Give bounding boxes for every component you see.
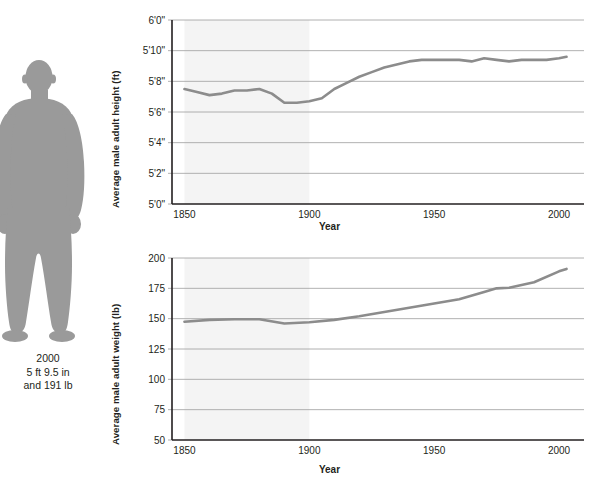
height-chart-plot: 5'0"5'2"5'4"5'6"5'8"5'10"6'0"18501900195…	[108, 8, 611, 218]
y-tick-label: 5'8"	[148, 76, 165, 87]
y-tick-label: 150	[148, 313, 165, 324]
x-tick-label: 1850	[173, 209, 196, 218]
weight-chart-x-axis-label: Year	[78, 464, 581, 475]
y-tick-label: 75	[154, 404, 166, 415]
silhouette-caption: 2000 5 ft 9.5 in and 191 lb	[0, 352, 96, 393]
caption-weight: and 191 lb	[0, 379, 96, 393]
y-tick-label: 125	[148, 344, 165, 355]
y-tick-label: 175	[148, 283, 165, 294]
x-tick-label: 1950	[423, 445, 446, 456]
y-tick-label: 5'0"	[148, 199, 165, 210]
y-tick-label: 5'10"	[143, 45, 166, 56]
x-tick-label: 1950	[423, 209, 446, 218]
x-tick-label: 1900	[298, 445, 321, 456]
weight-chart-y-axis-label: Average male adult weight (lb)	[110, 304, 121, 445]
silhouette-panel: 2000 5 ft 9.5 in and 191 lb	[0, 0, 108, 490]
x-tick-label: 2000	[548, 209, 571, 218]
height-chart-y-axis-label: Average male adult height (ft)	[110, 70, 121, 208]
y-tick-label: 100	[148, 374, 165, 385]
height-chart-x-axis-label: Year	[78, 221, 581, 232]
y-tick-label: 200	[148, 253, 165, 264]
x-tick-label: 2000	[548, 445, 571, 456]
male-silhouette-icon	[0, 58, 92, 348]
figure-page: 2000 5 ft 9.5 in and 191 lb Average male…	[0, 0, 611, 490]
y-tick-label: 5'4"	[148, 137, 165, 148]
weight-chart-plot: 50751001251501752001850190019502000	[108, 240, 611, 460]
caption-year: 2000	[0, 352, 96, 366]
y-tick-label: 5'6"	[148, 107, 165, 118]
x-tick-label: 1900	[298, 209, 321, 218]
y-tick-label: 5'2"	[148, 168, 165, 179]
weight-chart: Average male adult weight (lb) 507510012…	[108, 240, 611, 490]
caption-height: 5 ft 9.5 in	[0, 366, 96, 380]
y-tick-label: 50	[154, 435, 166, 446]
height-chart: Average male adult height (ft) 5'0"5'2"5…	[108, 8, 611, 240]
x-tick-label: 1850	[173, 445, 196, 456]
y-tick-label: 6'0"	[148, 15, 165, 26]
